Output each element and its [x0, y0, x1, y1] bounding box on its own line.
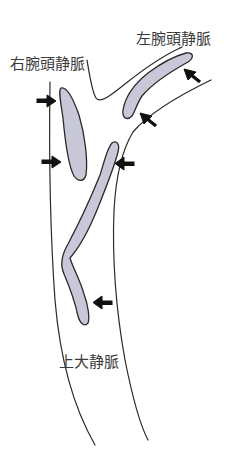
svc-right-wall	[113, 80, 211, 440]
left-brachiocephalic-vein-label: 左腕頭静脈	[136, 27, 211, 48]
arrow-svc-lower	[93, 296, 112, 309]
arrow-right-bcv-lower	[42, 156, 61, 168]
arrow-right-bcv-upper	[37, 95, 56, 107]
arrow-svc-upper	[115, 157, 134, 170]
right-brachiocephalic-vein-label: 右腕頭静脈	[10, 52, 85, 73]
arrow-left-bcv-upper	[184, 69, 200, 82]
right-bcv-thrombus	[60, 88, 87, 181]
arrow-left-bcv-lower	[140, 113, 156, 126]
vein-diagram: 左腕頭静脈 右腕頭静脈 上大静脈	[0, 0, 239, 454]
svc-thrombus	[62, 142, 119, 325]
superior-vena-cava-label: 上大静脈	[59, 350, 119, 371]
left-bcv-thrombus	[123, 53, 192, 119]
